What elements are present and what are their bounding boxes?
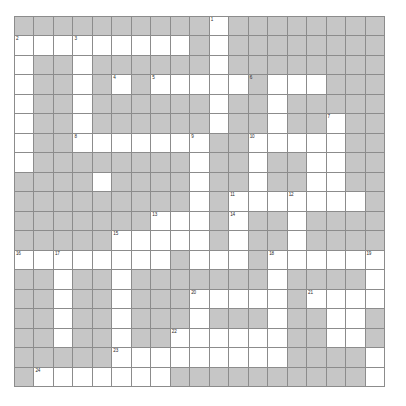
- crossword-open-cell[interactable]: [327, 309, 346, 328]
- crossword-open-cell[interactable]: 14: [229, 212, 248, 231]
- crossword-open-cell[interactable]: 16: [15, 251, 34, 270]
- crossword-open-cell[interactable]: [132, 36, 151, 55]
- crossword-open-cell[interactable]: [171, 134, 190, 153]
- crossword-open-cell[interactable]: [229, 348, 248, 367]
- crossword-open-cell[interactable]: [268, 192, 287, 211]
- crossword-open-cell[interactable]: [54, 270, 73, 289]
- crossword-open-cell[interactable]: [112, 270, 131, 289]
- crossword-open-cell[interactable]: [307, 153, 326, 172]
- crossword-open-cell[interactable]: [15, 134, 34, 153]
- crossword-open-cell[interactable]: [54, 290, 73, 309]
- crossword-open-cell[interactable]: [132, 368, 151, 387]
- crossword-open-cell[interactable]: [112, 134, 131, 153]
- crossword-open-cell[interactable]: [34, 251, 53, 270]
- crossword-open-cell[interactable]: [229, 231, 248, 250]
- crossword-open-cell[interactable]: [249, 329, 268, 348]
- crossword-open-cell[interactable]: [210, 329, 229, 348]
- crossword-open-cell[interactable]: [151, 231, 170, 250]
- crossword-open-cell[interactable]: [132, 231, 151, 250]
- crossword-open-cell[interactable]: [346, 290, 365, 309]
- crossword-open-cell[interactable]: [151, 348, 170, 367]
- crossword-open-cell[interactable]: [112, 368, 131, 387]
- crossword-open-cell[interactable]: [307, 75, 326, 94]
- crossword-open-cell[interactable]: [210, 56, 229, 75]
- crossword-open-cell[interactable]: [366, 270, 385, 289]
- crossword-open-cell[interactable]: 2: [15, 36, 34, 55]
- crossword-open-cell[interactable]: [15, 75, 34, 94]
- crossword-open-cell[interactable]: [327, 251, 346, 270]
- crossword-open-cell[interactable]: [210, 290, 229, 309]
- crossword-open-cell[interactable]: [93, 368, 112, 387]
- crossword-open-cell[interactable]: 18: [268, 251, 287, 270]
- crossword-puzzle[interactable]: 123456789101112131415161718192021222324: [14, 16, 385, 387]
- crossword-open-cell[interactable]: [366, 348, 385, 367]
- crossword-open-cell[interactable]: [132, 251, 151, 270]
- crossword-open-cell[interactable]: [210, 251, 229, 270]
- crossword-open-cell[interactable]: [307, 134, 326, 153]
- crossword-open-cell[interactable]: [268, 114, 287, 133]
- crossword-open-cell[interactable]: [288, 75, 307, 94]
- crossword-open-cell[interactable]: [171, 231, 190, 250]
- crossword-open-cell[interactable]: [190, 192, 209, 211]
- crossword-open-cell[interactable]: 4: [112, 75, 131, 94]
- crossword-open-cell[interactable]: [151, 368, 170, 387]
- crossword-open-cell[interactable]: [73, 251, 92, 270]
- crossword-open-cell[interactable]: [54, 36, 73, 55]
- crossword-open-cell[interactable]: [151, 134, 170, 153]
- crossword-open-cell[interactable]: [327, 153, 346, 172]
- crossword-open-cell[interactable]: 8: [73, 134, 92, 153]
- crossword-open-cell[interactable]: [73, 75, 92, 94]
- crossword-open-cell[interactable]: [73, 56, 92, 75]
- crossword-open-cell[interactable]: [346, 251, 365, 270]
- crossword-open-cell[interactable]: 20: [190, 290, 209, 309]
- crossword-open-cell[interactable]: [190, 329, 209, 348]
- crossword-open-cell[interactable]: [327, 329, 346, 348]
- crossword-open-cell[interactable]: [268, 95, 287, 114]
- crossword-open-cell[interactable]: 7: [327, 114, 346, 133]
- crossword-open-cell[interactable]: [249, 290, 268, 309]
- crossword-open-cell[interactable]: [190, 309, 209, 328]
- crossword-open-cell[interactable]: [93, 134, 112, 153]
- crossword-open-cell[interactable]: [210, 95, 229, 114]
- crossword-open-cell[interactable]: [190, 251, 209, 270]
- crossword-open-cell[interactable]: [229, 251, 248, 270]
- crossword-open-cell[interactable]: [366, 368, 385, 387]
- crossword-open-cell[interactable]: [327, 290, 346, 309]
- crossword-open-cell[interactable]: [93, 251, 112, 270]
- crossword-open-cell[interactable]: [132, 348, 151, 367]
- crossword-open-cell[interactable]: [190, 153, 209, 172]
- crossword-open-cell[interactable]: [54, 329, 73, 348]
- crossword-open-cell[interactable]: [210, 114, 229, 133]
- crossword-open-cell[interactable]: [229, 329, 248, 348]
- crossword-open-cell[interactable]: [210, 348, 229, 367]
- crossword-open-cell[interactable]: 21: [307, 290, 326, 309]
- crossword-open-cell[interactable]: [171, 212, 190, 231]
- crossword-open-cell[interactable]: [210, 36, 229, 55]
- crossword-open-cell[interactable]: [151, 251, 170, 270]
- crossword-open-cell[interactable]: 12: [288, 192, 307, 211]
- crossword-open-cell[interactable]: 1: [210, 17, 229, 36]
- crossword-open-cell[interactable]: 23: [112, 348, 131, 367]
- crossword-open-cell[interactable]: 19: [366, 251, 385, 270]
- crossword-open-cell[interactable]: 22: [171, 329, 190, 348]
- crossword-open-cell[interactable]: 15: [112, 231, 131, 250]
- crossword-open-cell[interactable]: [288, 251, 307, 270]
- crossword-open-cell[interactable]: [54, 368, 73, 387]
- crossword-open-cell[interactable]: [190, 173, 209, 192]
- crossword-open-cell[interactable]: [346, 192, 365, 211]
- crossword-open-cell[interactable]: [229, 75, 248, 94]
- crossword-open-cell[interactable]: [93, 173, 112, 192]
- crossword-open-cell[interactable]: [307, 192, 326, 211]
- crossword-open-cell[interactable]: [112, 309, 131, 328]
- crossword-open-cell[interactable]: [366, 290, 385, 309]
- crossword-open-cell[interactable]: [268, 270, 287, 289]
- crossword-open-cell[interactable]: [112, 329, 131, 348]
- crossword-open-cell[interactable]: [73, 368, 92, 387]
- crossword-open-cell[interactable]: 10: [249, 134, 268, 153]
- crossword-open-cell[interactable]: [190, 75, 209, 94]
- crossword-open-cell[interactable]: [190, 348, 209, 367]
- crossword-open-cell[interactable]: [268, 134, 287, 153]
- crossword-open-cell[interactable]: [112, 251, 131, 270]
- crossword-open-cell[interactable]: [288, 134, 307, 153]
- crossword-open-cell[interactable]: [346, 309, 365, 328]
